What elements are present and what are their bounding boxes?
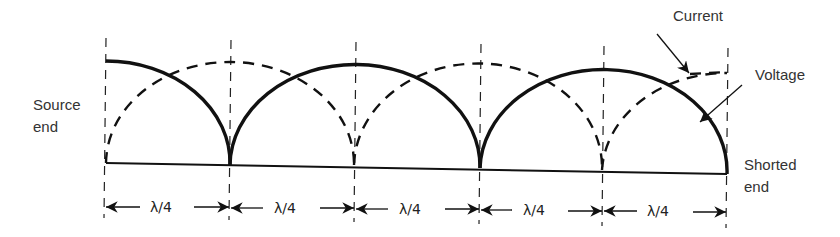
source-end-label: Source (33, 96, 81, 113)
transmission-line (106, 163, 727, 174)
shorted-end-label-2: end (744, 178, 769, 195)
dimension-label: λ/4 (274, 200, 296, 216)
standing-wave-diagram: Source end Shorted end Current Voltage λ… (0, 0, 840, 237)
current-leader-arrow (657, 34, 689, 73)
current-label: Current (673, 7, 724, 24)
dimension-label: λ/4 (523, 202, 545, 218)
dimension-label: λ/4 (399, 201, 421, 217)
dimension-label: λ/4 (150, 199, 172, 215)
voltage-leader-arrow (700, 85, 742, 122)
dimension-label: λ/4 (647, 203, 669, 219)
voltage-curve (106, 61, 727, 174)
shorted-end-label: Shorted (744, 156, 797, 173)
source-end-label-2: end (33, 118, 58, 135)
voltage-label: Voltage (755, 66, 805, 83)
